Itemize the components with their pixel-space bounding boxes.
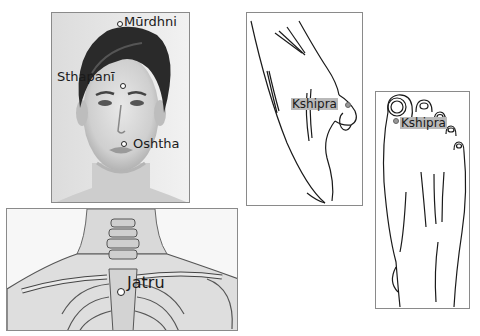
sthapani-point[interactable] xyxy=(120,83,126,89)
hand-kshipra-label: Kshipra xyxy=(291,98,338,110)
jatru-point[interactable] xyxy=(117,288,125,296)
jatru-label: Jatru xyxy=(127,275,165,291)
face-panel: Mūrdhni Sthapanī Oshtha xyxy=(51,12,190,203)
chest-illustration xyxy=(7,209,238,331)
murdhni-label: Mūrdhni xyxy=(124,15,177,28)
oshtha-label: Oshtha xyxy=(133,137,180,150)
foot-kshipra-label: Kshipra xyxy=(400,117,447,129)
oshtha-point[interactable] xyxy=(121,141,127,147)
sthapani-label: Sthapanī xyxy=(57,70,115,83)
foot-kshipra-point[interactable] xyxy=(393,118,399,124)
hand-panel: Kshipra xyxy=(246,12,363,206)
foot-panel: Kshipra xyxy=(375,91,470,309)
face-illustration xyxy=(52,13,190,203)
hand-kshipra-point[interactable] xyxy=(345,102,351,108)
chest-panel: Jatru xyxy=(6,208,238,331)
murdhni-point[interactable] xyxy=(117,21,123,27)
